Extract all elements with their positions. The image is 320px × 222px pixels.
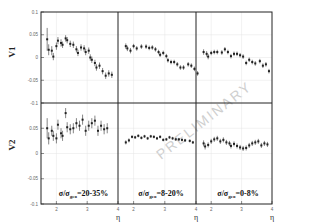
- data-point: [213, 138, 215, 140]
- x-axis-label: η: [194, 213, 198, 222]
- data-point: [236, 53, 238, 55]
- y-tick-label: 0: [35, 55, 38, 60]
- data-point: [108, 72, 110, 74]
- data-point: [134, 136, 136, 138]
- data-point: [105, 75, 107, 77]
- x-tick-label: 4: [117, 207, 120, 212]
- x-tick-label: 3: [164, 207, 167, 212]
- data-point: [189, 140, 191, 142]
- data-point: [216, 51, 218, 53]
- data-point: [228, 142, 230, 144]
- data-point: [263, 142, 265, 144]
- data-point: [133, 45, 135, 47]
- data-point: [239, 146, 241, 148]
- data-point: [75, 48, 77, 50]
- data-point: [248, 144, 250, 146]
- data-point: [80, 46, 82, 48]
- x-tick-label: 3: [240, 207, 243, 212]
- data-point: [140, 137, 142, 139]
- data-point: [129, 50, 131, 52]
- data-point: [172, 137, 174, 139]
- centrality-label: σ/σgeo=20-35%: [59, 189, 108, 199]
- data-point: [181, 139, 183, 141]
- data-point: [65, 37, 67, 39]
- data-point: [150, 135, 152, 137]
- y-tick-label: 0.1: [32, 10, 39, 15]
- data-point: [89, 57, 91, 59]
- data-point: [62, 135, 64, 137]
- data-point: [179, 67, 181, 69]
- data-point: [190, 65, 192, 67]
- panel-frames: [41, 12, 272, 204]
- data-point: [203, 142, 205, 144]
- data-point: [193, 68, 195, 70]
- data-point: [151, 46, 153, 48]
- data-point: [65, 112, 67, 114]
- data-point: [100, 125, 102, 127]
- data-point: [154, 48, 156, 50]
- data-point: [55, 45, 57, 47]
- data-point: [159, 136, 161, 138]
- y-tick-label: -0.1: [30, 101, 38, 106]
- data-point: [75, 122, 77, 124]
- data-point: [94, 62, 96, 64]
- data-point: [153, 136, 155, 138]
- data-point: [144, 135, 146, 137]
- data-point: [88, 125, 90, 127]
- data-point: [204, 145, 206, 147]
- data-point: [242, 56, 244, 58]
- data-point: [257, 140, 259, 142]
- data-point: [85, 51, 87, 53]
- data-point: [148, 47, 150, 49]
- data-point: [91, 59, 93, 61]
- data-point: [206, 53, 208, 55]
- y-tick-label: 0.05: [29, 32, 38, 37]
- data-point: [230, 55, 232, 57]
- data-point: [51, 130, 53, 132]
- y-tick-label: -0.05: [28, 176, 39, 181]
- data-point: [66, 126, 68, 128]
- data-point: [165, 138, 167, 140]
- data-point: [233, 53, 235, 55]
- data-point: [233, 143, 235, 145]
- data-point: [46, 127, 48, 129]
- centrality-label: σ/σgeo=0-8%: [217, 189, 258, 199]
- data-point: [88, 50, 90, 52]
- data-point: [158, 51, 160, 53]
- data-point: [184, 139, 186, 141]
- data-point: [55, 137, 57, 139]
- data-point: [57, 124, 59, 126]
- y-tick-label: -0.05: [28, 78, 39, 83]
- data-point: [83, 47, 85, 49]
- data-point: [225, 141, 227, 143]
- data-point: [187, 63, 189, 65]
- data-point: [62, 44, 64, 46]
- data-point: [210, 140, 212, 142]
- centrality-labels: σ/σgeo=20-35%σ/σgeo=8-20%σ/σgeo=0-8%: [59, 189, 259, 199]
- data-point: [210, 52, 212, 54]
- data-point: [126, 47, 128, 49]
- centrality-label: σ/σgeo=8-20%: [138, 189, 183, 199]
- data-point: [156, 137, 158, 139]
- y-tick-label: -0.1: [30, 202, 38, 207]
- data-point: [203, 51, 205, 53]
- data-point: [57, 40, 59, 42]
- x-tick-label: 2: [210, 207, 213, 212]
- data-point: [207, 56, 209, 58]
- grid-lines: [41, 12, 272, 204]
- data-point: [48, 49, 50, 51]
- data-point: [262, 65, 264, 67]
- data-point: [48, 137, 50, 139]
- data-point: [69, 128, 71, 130]
- data-point: [97, 130, 99, 132]
- data-point: [245, 62, 247, 64]
- data-point: [106, 127, 108, 129]
- data-point: [173, 61, 175, 63]
- data-point: [183, 67, 185, 69]
- x-axis-label: η: [270, 213, 274, 222]
- x-tick-label: 3: [86, 207, 89, 212]
- data-point: [137, 135, 139, 137]
- data-point: [82, 119, 84, 121]
- y-tick-label: 0.05: [29, 126, 38, 131]
- data-point: [145, 46, 147, 48]
